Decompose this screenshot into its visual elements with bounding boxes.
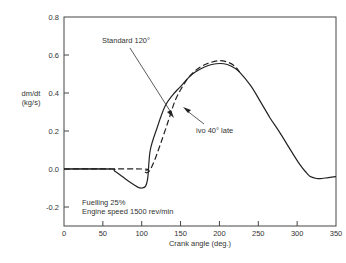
arrowhead-ivo [183,107,191,113]
x-tick-label: 0 [62,229,66,238]
x-tick-label: 150 [174,229,187,238]
annotation-engine-speed: Engine speed 1500 rev/min [82,207,173,216]
chart: 0501001502002503003500.80.60.40.20.0-0.2… [0,0,346,263]
annotation-standard: Standard 120° [102,36,150,45]
x-tick-label: 200 [213,229,226,238]
data-series [64,61,336,188]
x-tick-label: 250 [252,229,265,238]
y-tick-label: 0.8 [49,13,59,22]
plot-frame [64,17,336,226]
annotation-ivo-late: ivo 40° late [196,126,233,135]
plot-border [64,17,336,226]
y-tick-label: 0.0 [49,165,59,174]
y-tick-label: 0.4 [49,89,59,98]
x-tick-label: 350 [330,229,343,238]
annotations [130,48,204,124]
x-axis-label: Crank angle (deg.) [169,239,232,248]
x-tick-label: 50 [99,229,107,238]
arrow-standard [130,48,172,114]
x-tick-label: 300 [291,229,304,238]
series-ivo-40-late [64,61,240,173]
annotation-fuelling: Fuelling 25% [82,198,126,207]
y-tick-label: 0.6 [49,51,59,60]
y-axis-label: dm/dt [22,89,42,98]
y-tick-label: -0.2 [46,203,59,212]
y-axis-units: (kg/s) [22,98,41,107]
arrowhead-standard [167,110,174,118]
y-tick-label: 0.2 [49,127,59,136]
x-tick-label: 100 [135,229,148,238]
